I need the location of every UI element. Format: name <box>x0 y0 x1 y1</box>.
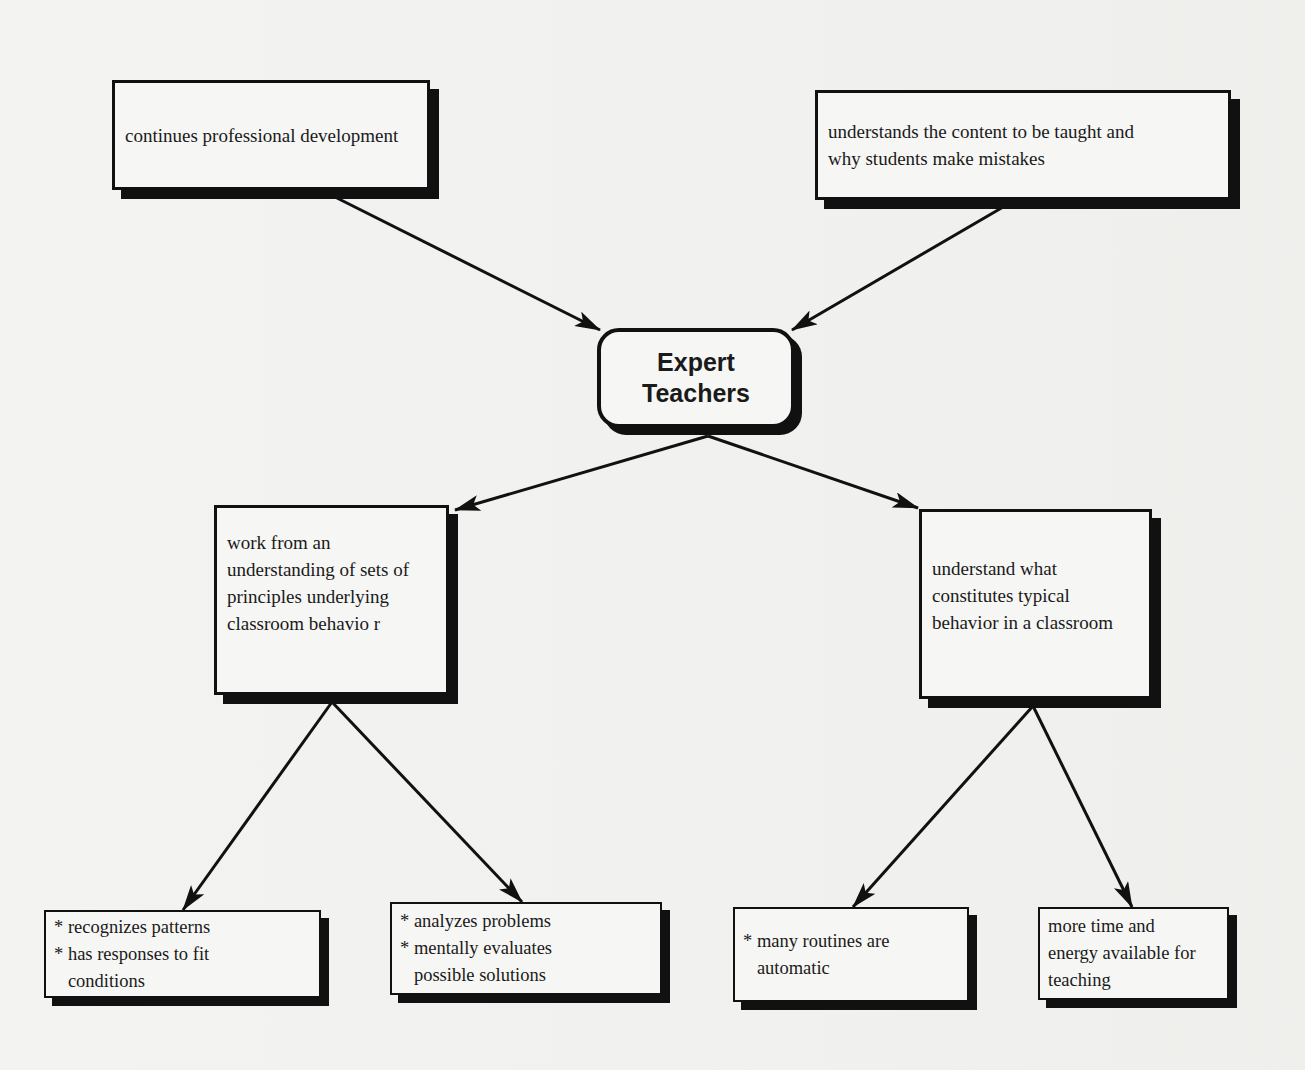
node-patterns: * recognizes patterns * has responses to… <box>44 910 321 998</box>
node-typical: understand what constitutes typical beha… <box>919 509 1152 699</box>
node-routines: * many routines are automatic <box>733 907 969 1002</box>
node-problems: * analyzes problems * mentally evaluates… <box>390 902 662 995</box>
node-time-lines: more time and energy available for teach… <box>1048 913 1196 994</box>
central-label: Expert Teachers <box>642 347 750 409</box>
node-routines-line: * many routines are <box>743 928 889 955</box>
node-typical-label: understand what constitutes typical beha… <box>932 555 1113 636</box>
node-prof-dev-label: continues professional development <box>125 122 398 149</box>
node-central-expert-teachers: Expert Teachers <box>597 328 795 428</box>
node-problems-lines: * analyzes problems * mentally evaluates… <box>400 908 552 989</box>
node-principles-label: work from an understanding of sets of pr… <box>227 529 409 637</box>
node-patterns-line: * recognizes patterns <box>54 914 210 941</box>
node-prof-dev: continues professional development <box>112 80 430 190</box>
node-time: more time and energy available for teach… <box>1038 907 1229 1000</box>
node-problems-line: * mentally evaluates <box>400 935 552 962</box>
node-problems-line: possible solutions <box>400 962 552 989</box>
node-time-line: teaching <box>1048 967 1196 994</box>
node-time-line: energy available for <box>1048 940 1196 967</box>
node-content: understands the content to be taught and… <box>815 90 1231 200</box>
node-routines-line: automatic <box>743 955 889 982</box>
node-patterns-lines: * recognizes patterns * has responses to… <box>54 914 210 995</box>
node-problems-line: * analyzes problems <box>400 908 552 935</box>
node-routines-lines: * many routines are automatic <box>743 928 889 982</box>
node-patterns-line: * has responses to fit <box>54 941 210 968</box>
node-content-label: understands the content to be taught and… <box>828 118 1134 172</box>
node-patterns-line: conditions <box>54 968 210 995</box>
node-principles: work from an understanding of sets of pr… <box>214 505 449 695</box>
node-time-line: more time and <box>1048 913 1196 940</box>
